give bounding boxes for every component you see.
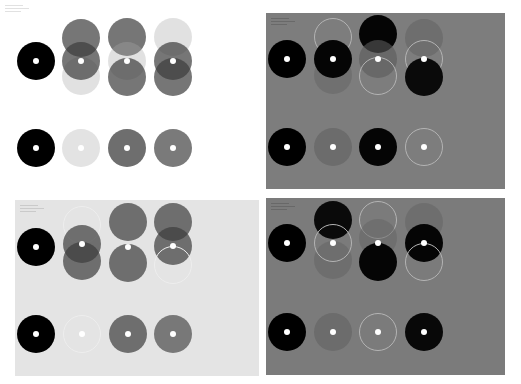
fixation-dot [330, 329, 336, 335]
panel-label [271, 203, 297, 212]
fixation-dot [375, 240, 381, 246]
panel-bottom-right [266, 198, 505, 375]
fixation-dot [33, 331, 39, 337]
circle-disc [405, 243, 443, 281]
fixation-dot [170, 243, 176, 249]
fixation-dot [33, 145, 39, 151]
fixation-dot [330, 56, 336, 62]
fixation-dot [375, 329, 381, 335]
circle-disc [154, 246, 192, 284]
fixation-dot [421, 56, 427, 62]
fixation-dot [170, 145, 176, 151]
fixation-dot [124, 145, 130, 151]
fixation-dot [78, 58, 84, 64]
fixation-dot [125, 331, 131, 337]
fixation-dot [284, 240, 290, 246]
fixation-dot [170, 331, 176, 337]
circle-disc [359, 243, 397, 281]
panel-bottom-left [15, 200, 259, 376]
fixation-dot [124, 58, 130, 64]
fixation-dot [421, 329, 427, 335]
fixation-dot [421, 240, 427, 246]
fixation-dot [284, 56, 290, 62]
fixation-dot [284, 144, 290, 150]
panel-top-left [0, 0, 262, 192]
circle-disc [63, 242, 101, 280]
fixation-dot [284, 329, 290, 335]
fixation-dot [375, 56, 381, 62]
fixation-dot [330, 240, 336, 246]
fixation-dot [79, 331, 85, 337]
fixation-dot [33, 244, 39, 250]
panel-top-right [266, 13, 505, 189]
circle-disc [405, 58, 443, 96]
fixation-dot [125, 244, 131, 250]
fixation-dot [79, 241, 85, 247]
fixation-dot [78, 145, 84, 151]
fixation-dot [330, 144, 336, 150]
fixation-dot [170, 58, 176, 64]
fixation-dot [375, 144, 381, 150]
panel-label [20, 205, 46, 214]
panel-label [271, 18, 297, 27]
panel-label [5, 5, 31, 14]
circle-disc [359, 57, 397, 95]
fixation-dot [421, 144, 427, 150]
fixation-dot [33, 58, 39, 64]
